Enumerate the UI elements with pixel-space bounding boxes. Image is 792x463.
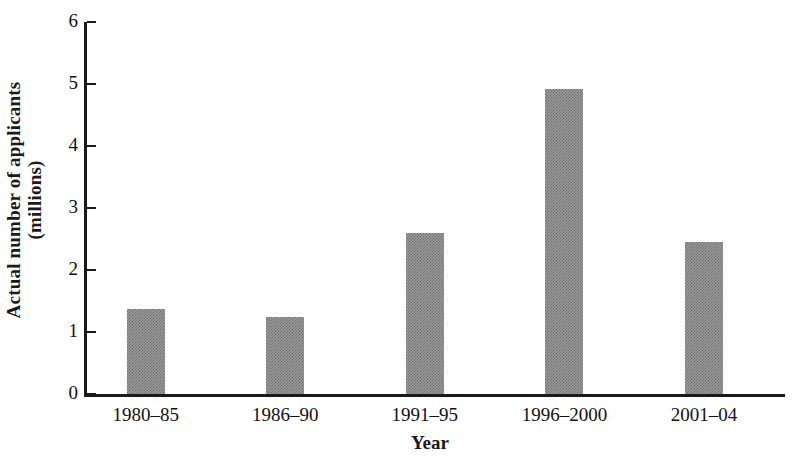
- bar: [685, 242, 723, 394]
- x-axis-title: Year: [0, 432, 792, 454]
- x-tick-label: 1991–95: [350, 404, 500, 426]
- x-tick-label: 1986–90: [210, 404, 360, 426]
- x-tick-label: 1980–85: [71, 404, 221, 426]
- bar-chart: Actual number of applicants (millions) 6…: [0, 0, 792, 463]
- bar: [406, 233, 444, 394]
- bar: [127, 309, 165, 394]
- bar: [545, 89, 583, 394]
- bars-layer: [0, 0, 792, 463]
- x-tick-label: 1996–2000: [489, 404, 639, 426]
- x-axis-title-text: Year: [411, 432, 449, 454]
- x-tick-label: 2001–04: [629, 404, 779, 426]
- bar: [266, 317, 304, 394]
